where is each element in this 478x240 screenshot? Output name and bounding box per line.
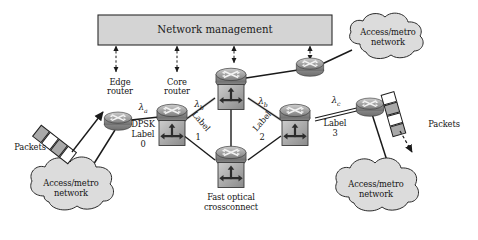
fast-optical-crossconnect-label-line1: Fast optical: [192, 193, 270, 202]
fast-optical-crossconnect-label-line2: crossconnect: [192, 203, 270, 212]
cloud-bottom-left-label-line1: Access/metro: [35, 179, 107, 188]
label-word-0: Label: [126, 130, 160, 139]
label-index-3: 3: [318, 129, 352, 138]
cloud-top-right-label-line1: Access/metro: [352, 28, 424, 37]
lambda-a-label: λa: [133, 103, 153, 114]
top-right-router-node[interactable]: [296, 58, 323, 76]
packet-train-left: [33, 112, 103, 164]
label-index-0: 0: [126, 140, 160, 149]
lambda-a-sub: a: [144, 107, 148, 114]
packet-train-right: [381, 92, 412, 152]
packet-arrow-left: [72, 112, 103, 152]
lambda-b-right-label: λb: [253, 97, 273, 108]
lambda-c-sub: c: [337, 100, 340, 107]
label-word-3: Label: [318, 119, 352, 128]
top-crossconnect-node[interactable]: [218, 85, 244, 110]
network-diagram-figure: Network management Edge router Core rout…: [0, 0, 478, 240]
lambda-c-label: λc: [326, 96, 346, 107]
edge-router-label-line2: router: [98, 87, 142, 96]
cloud-bottom-right-label-line1: Access/metro: [340, 180, 412, 189]
core-router-label-line2: router: [155, 87, 199, 96]
label-index-1: 1: [191, 133, 205, 142]
packets-label-left: Packets: [6, 143, 54, 152]
far-right-router-node[interactable]: [356, 98, 383, 116]
right-crossconnect-node[interactable]: [282, 121, 308, 146]
cloud-bottom-left-label-line2: network: [35, 189, 107, 198]
cloud-bottom-right-label-line2: network: [340, 190, 412, 199]
label-index-2: 2: [255, 133, 269, 142]
core-crossconnect-node[interactable]: [159, 121, 185, 146]
fast-optical-crossconnect-node[interactable]: [218, 163, 244, 188]
cloud-top-right-label-line2: network: [352, 38, 424, 47]
network-management-label: Network management: [98, 24, 332, 35]
dpsk-label: DPSK: [126, 120, 160, 129]
link-topright-router-cloud: [322, 50, 352, 64]
lambda-b-left-sub: b: [200, 104, 204, 111]
link-topoxc-topright-router: [246, 70, 298, 78]
packets-label-right: Packets: [419, 120, 469, 129]
